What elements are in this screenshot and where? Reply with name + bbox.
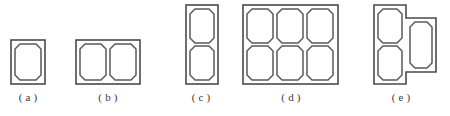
panel-d: ( d ): [236, 0, 346, 116]
panel-c-cell-2: [190, 46, 214, 80]
panel-e-caption: ( e ): [352, 90, 450, 104]
panel-d-cell-1: [247, 9, 273, 43]
panel-b-cell-1: [80, 44, 106, 80]
panel-a: ( a ): [0, 0, 56, 116]
panel-c: ( c ): [162, 0, 240, 116]
panel-c-cell-1: [190, 9, 214, 43]
panel-e-cell-3: [410, 22, 432, 68]
panel-d-cell-3: [307, 9, 333, 43]
panel-e-cell-1: [378, 9, 402, 43]
panel-b-cell-2: [110, 44, 136, 80]
panel-a-cell-1: [15, 44, 41, 80]
panel-e-cell-2: [378, 46, 402, 80]
panel-b: ( b ): [62, 0, 154, 116]
figure-diagram: ( a ) ( b ) ( c ) ( d ): [0, 0, 450, 116]
panel-b-caption: ( b ): [62, 90, 154, 104]
panel-b-drawing: [62, 0, 154, 88]
panel-d-cell-4: [247, 46, 273, 80]
panel-a-caption: ( a ): [0, 90, 56, 104]
panel-d-cell-2: [277, 9, 303, 43]
panel-c-caption: ( c ): [162, 90, 240, 104]
panel-e: ( e ): [352, 0, 450, 116]
panel-d-cell-5: [277, 46, 303, 80]
panel-d-cell-6: [307, 46, 333, 80]
panel-d-drawing: [236, 0, 346, 88]
panel-d-caption: ( d ): [236, 90, 346, 104]
panel-e-drawing: [352, 0, 450, 88]
panel-c-drawing: [162, 0, 240, 88]
panel-a-drawing: [0, 0, 56, 88]
